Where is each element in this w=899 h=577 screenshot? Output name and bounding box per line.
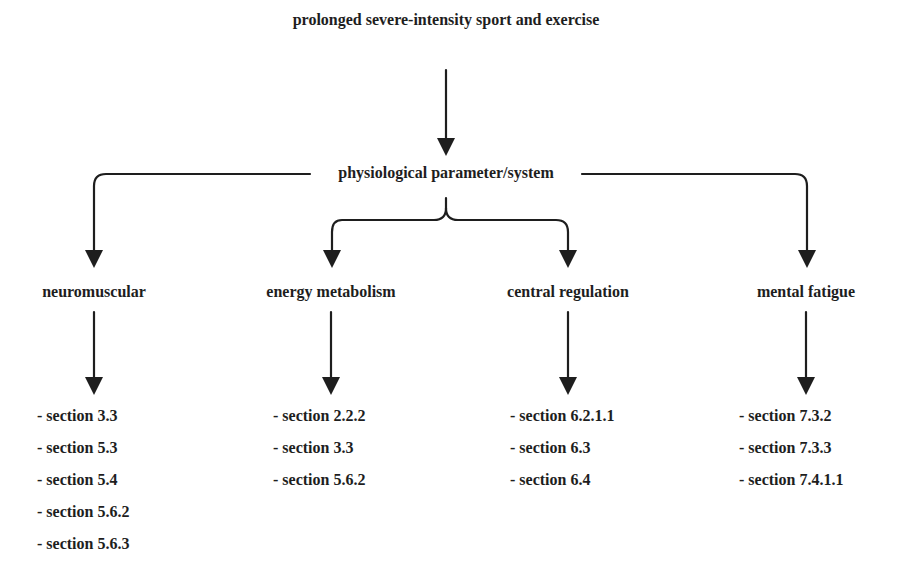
arrowhead-icon — [437, 138, 455, 156]
neuromuscular-section-list: - section 3.3 - section 5.3 - section 5.… — [37, 404, 129, 564]
arrowhead-icon — [85, 377, 103, 395]
arrowhead-icon — [798, 250, 816, 268]
arrowhead-icon — [323, 250, 341, 268]
section-reference: - section 5.6.2 — [37, 500, 129, 532]
section-reference: - section 7.4.1.1 — [739, 468, 843, 500]
mental-fatigue-section-list: - section 7.3.2 - section 7.3.3 - sectio… — [739, 404, 843, 500]
category-central-regulation-label: central regulation — [503, 282, 633, 302]
section-reference: - section 3.3 — [37, 404, 129, 436]
section-reference: - section 3.3 — [273, 436, 365, 468]
section-reference: - section 5.3 — [37, 436, 129, 468]
hub-brace-connector-right — [446, 208, 568, 252]
category-mental-fatigue-label: mental fatigue — [753, 282, 859, 302]
central-regulation-section-list: - section 6.2.1.1 - section 6.3 - sectio… — [510, 404, 614, 500]
section-reference: - section 7.3.3 — [739, 436, 843, 468]
section-reference: - section 6.4 — [510, 468, 614, 500]
category-energy-metabolism-label: energy metabolism — [262, 282, 399, 302]
section-reference: - section 7.3.2 — [739, 404, 843, 436]
hub-to-mental-fatigue-connector — [582, 174, 807, 252]
arrowhead-icon — [559, 250, 577, 268]
hub-node-label: physiological parameter/system — [332, 163, 560, 183]
arrowhead-icon — [559, 377, 577, 395]
category-neuromuscular-label: neuromuscular — [38, 282, 150, 302]
root-node-label: prolonged severe-intensity sport and exe… — [289, 10, 604, 30]
flow-diagram: prolonged severe-intensity sport and exe… — [0, 0, 899, 577]
section-reference: - section 5.4 — [37, 468, 129, 500]
section-reference: - section 5.6.3 — [37, 532, 129, 564]
arrowhead-icon — [797, 377, 815, 395]
section-reference: - section 2.2.2 — [273, 404, 365, 436]
hub-to-neuromuscular-connector — [94, 174, 310, 252]
section-reference: - section 5.6.2 — [273, 468, 365, 500]
hub-brace-connector — [332, 198, 446, 252]
arrowhead-icon — [322, 377, 340, 395]
energy-metabolism-section-list: - section 2.2.2 - section 3.3 - section … — [273, 404, 365, 500]
section-reference: - section 6.3 — [510, 436, 614, 468]
arrowhead-icon — [85, 250, 103, 268]
section-reference: - section 6.2.1.1 — [510, 404, 614, 436]
